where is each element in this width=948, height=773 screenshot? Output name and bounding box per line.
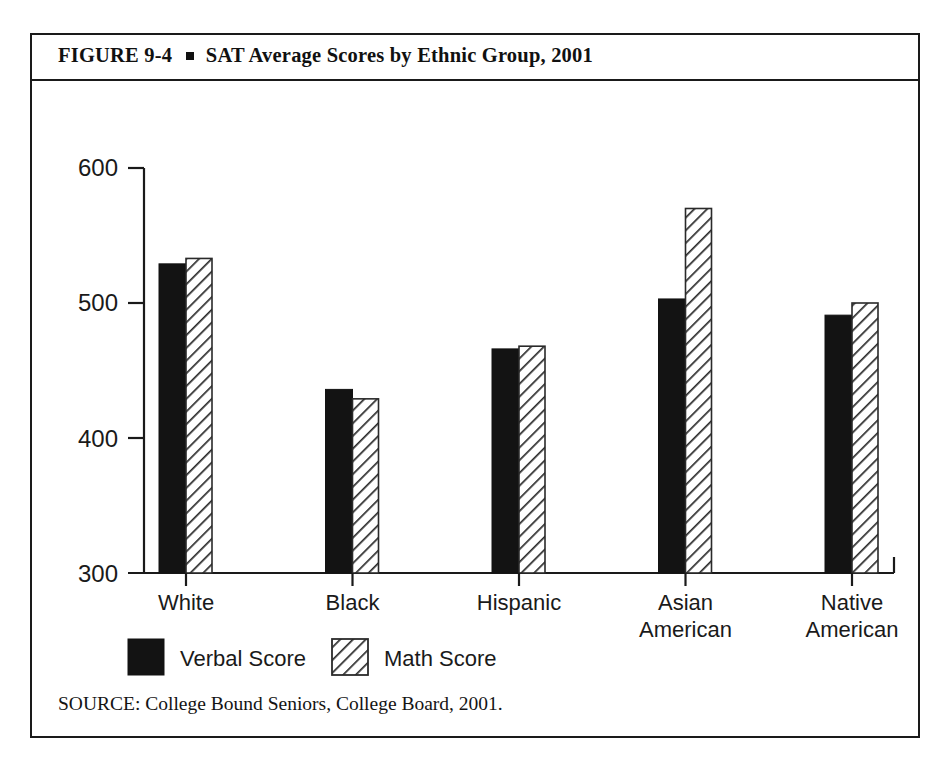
source-note: SOURCE: College Bound Seniors, College B… [58, 693, 503, 715]
legend-label-verbal: Verbal Score [180, 646, 306, 671]
bar-math [186, 258, 212, 573]
bar-chart: 600 500 400 300 WhiteBlackHispanicAsianA… [32, 81, 918, 736]
legend-swatch-verbal [128, 639, 164, 675]
square-bullet-icon [186, 52, 194, 60]
y-tick-300: 300 [78, 560, 118, 587]
y-tick-500: 500 [78, 289, 118, 316]
bar-verbal [659, 299, 686, 573]
bar-verbal [825, 315, 852, 573]
x-axis-label-black: Black [326, 590, 381, 615]
y-tick-600: 600 [78, 154, 118, 181]
y-axis-tick-labels: 600 500 400 300 [78, 154, 118, 587]
x-axis-label-native-american: American [806, 617, 899, 642]
bar-math [519, 346, 545, 573]
bar-math [852, 303, 878, 573]
bar-math [353, 399, 379, 573]
bar-verbal [159, 264, 186, 573]
x-axis-label-native-american: Native [821, 590, 883, 615]
chart-legend: Verbal Score Math Score [128, 639, 497, 675]
figure-number: FIGURE 9-4 [58, 44, 172, 66]
bar-math [686, 209, 712, 574]
chart-plot-area: 600 500 400 300 WhiteBlackHispanicAsianA… [32, 81, 918, 736]
category-labels: WhiteBlackHispanicAsianAmericanNativeAme… [158, 590, 899, 642]
x-axis-label-white: White [158, 590, 214, 615]
bar-verbal [492, 349, 519, 573]
page-title: FIGURE 9-4 SAT Average Scores by Ethnic … [58, 44, 593, 67]
figure-frame: FIGURE 9-4 SAT Average Scores by Ethnic … [30, 33, 920, 738]
figure-title-text: SAT Average Scores by Ethnic Group, 2001 [206, 44, 593, 66]
figure-title-band: FIGURE 9-4 SAT Average Scores by Ethnic … [32, 35, 918, 81]
y-tick-400: 400 [78, 425, 118, 452]
bar-verbal [326, 389, 353, 573]
x-axis-label-asian-american: Asian [658, 590, 713, 615]
legend-label-math: Math Score [384, 646, 497, 671]
legend-swatch-math [332, 639, 368, 675]
x-axis-label-asian-american: American [639, 617, 732, 642]
bars-layer [159, 209, 878, 587]
x-axis-label-hispanic: Hispanic [477, 590, 561, 615]
